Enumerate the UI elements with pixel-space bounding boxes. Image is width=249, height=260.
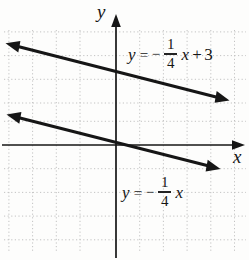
equation-upper-plus: + [192, 45, 202, 65]
equation-upper-constant: 3 [204, 45, 213, 65]
equation-lower-y: y [122, 183, 130, 203]
equation-upper-fraction: 1 4 [164, 37, 177, 71]
equation-lower-fraction: 1 4 [158, 175, 171, 209]
equation-lower-variable: x [175, 183, 183, 203]
equation-upper-variable: x [181, 45, 189, 65]
line-lower-right-arrowhead [206, 160, 221, 172]
equation-upper-y: y [128, 45, 136, 65]
equation-lower-minus: − [146, 184, 155, 201]
equation-upper-denominator: 4 [165, 55, 177, 71]
equation-label-lower: y = − 1 4 x [122, 176, 183, 210]
equation-label-upper: y = − 1 4 x + 3 [128, 38, 213, 72]
equation-upper-numerator: 1 [165, 37, 177, 53]
equation-lower-numerator: 1 [159, 175, 171, 191]
y-axis [111, 14, 121, 258]
equation-upper-minus: − [152, 46, 161, 63]
y-axis-arrowhead [111, 14, 121, 27]
equation-upper-equals: = [140, 47, 149, 64]
x-axis-label: x [233, 146, 241, 168]
line-upper-right-arrowhead [215, 91, 230, 103]
graph-figure: y x y = − 1 4 x + 3 y = − 1 4 x [0, 0, 249, 260]
line-upper-left-arrowhead [6, 41, 21, 53]
equation-lower-denominator: 4 [159, 193, 171, 209]
y-axis-label: y [97, 1, 105, 23]
equation-lower-equals: = [134, 185, 143, 202]
